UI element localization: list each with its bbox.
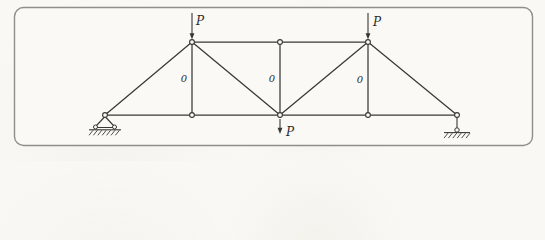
joint-D bbox=[366, 113, 371, 118]
joint-B bbox=[190, 113, 195, 118]
truss-figure-page: PPP 000 bbox=[0, 0, 545, 161]
joint-C bbox=[278, 113, 283, 118]
joint-E bbox=[455, 113, 460, 118]
zero-force-label: 0 bbox=[181, 73, 188, 84]
load-label: P bbox=[372, 15, 382, 29]
joint-G bbox=[278, 40, 283, 45]
pin-support-roller bbox=[113, 125, 117, 129]
load-label: P bbox=[195, 14, 205, 28]
zero-force-label: 0 bbox=[269, 73, 276, 84]
zero-force-label: 0 bbox=[357, 74, 364, 85]
roller-support-pin bbox=[455, 128, 459, 132]
joint-H bbox=[366, 40, 371, 45]
pin-support-roller bbox=[94, 125, 98, 129]
joint-A bbox=[103, 113, 108, 118]
joint-F bbox=[190, 40, 195, 45]
load-label: P bbox=[285, 125, 295, 139]
truss-figure: PPP 000 bbox=[0, 0, 545, 161]
